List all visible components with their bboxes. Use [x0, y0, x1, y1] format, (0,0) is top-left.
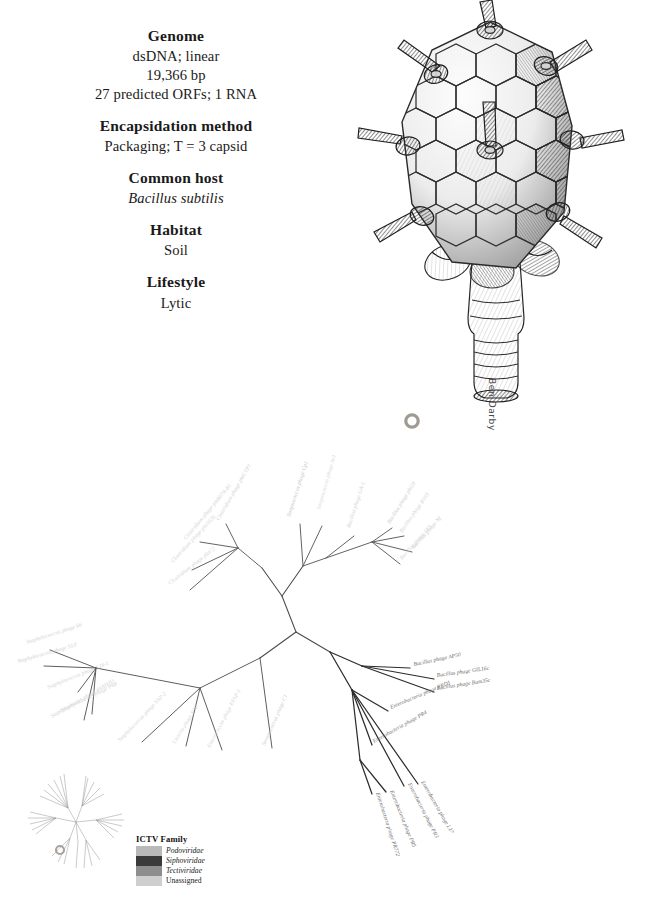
tree-tip-label: Staphylococcus phage S13' — [17, 641, 79, 664]
fact-line: dsDNA; linear — [0, 47, 352, 66]
tree-tip-label: Streptococcus phage C1 — [260, 693, 288, 746]
legend-item: Tectiviridae — [136, 866, 240, 876]
tree-tip-label: Clostridium phage phiC2 — [167, 545, 217, 586]
genome-fact-sheet: GenomedsDNA; linear19,366 bp27 predicted… — [0, 26, 352, 312]
legend-color-swatch — [136, 856, 162, 866]
legend-item-label: Tectiviridae — [162, 866, 202, 876]
legend-title: ICTV Family — [136, 834, 240, 844]
tree-tip-label: Streptococcus phage Cp1 — [285, 460, 309, 517]
phage-illustration — [340, 0, 645, 430]
legend-item: Podoviridae — [136, 846, 240, 856]
fact-line: Bacillus subtilis — [0, 189, 352, 208]
tree-tip-label: Listeria phage P70 — [170, 704, 199, 745]
legend-item-label: Siphoviridae — [162, 856, 205, 866]
inset-branches — [28, 774, 124, 868]
tree-tip-label: Staphylococcus phage SAP-2 — [116, 690, 167, 742]
fact-group: Encapsidation methodPackaging; T = 3 cap… — [0, 116, 352, 156]
inset-highlight-marker — [56, 846, 64, 854]
tree-overview-inset — [20, 768, 132, 872]
highlighted-taxon-marker — [406, 415, 418, 427]
fact-group: GenomedsDNA; linear19,366 bp27 predicted… — [0, 26, 352, 104]
legend-item: Siphoviridae — [136, 856, 240, 866]
legend: ICTV Family PodoviridaeSiphoviridaeTecti… — [136, 834, 240, 886]
tree-tip-label: Bacillus phage AP50 — [413, 651, 461, 667]
tree-tip-label: Streptococcus phage Av1 — [315, 454, 337, 511]
fact-line: 19,366 bp — [0, 66, 352, 85]
legend-rows: PodoviridaeSiphoviridaeTectiviridaeUnass… — [136, 846, 240, 886]
tree-tip-label: Enterobacteria phage PRD1 — [388, 679, 451, 710]
fact-line: Soil — [0, 241, 352, 260]
legend-color-swatch — [136, 866, 162, 876]
fact-heading: Habitat — [0, 220, 352, 240]
capsid-body — [358, 0, 624, 268]
fact-group: HabitatSoil — [0, 220, 352, 260]
legend-color-swatch — [136, 846, 162, 856]
fact-heading: Lifestyle — [0, 272, 352, 292]
tree-tip-label: Clostridium phage phi3626 — [169, 514, 216, 564]
fact-heading: Encapsidation method — [0, 116, 352, 136]
tree-branches — [44, 524, 434, 794]
legend-item-label: Unassigned — [162, 876, 201, 886]
fact-line: 27 predicted ORFs; 1 RNA — [0, 85, 352, 104]
fact-heading: Common host — [0, 168, 352, 188]
tree-tip-label: Enterobacteria phage PR4 — [371, 709, 428, 744]
legend-item: Unassigned — [136, 876, 240, 886]
fact-group: Common hostBacillus subtilis — [0, 168, 352, 208]
fact-line: Lytic — [0, 294, 352, 313]
fact-heading: Genome — [0, 26, 352, 46]
legend-item-label: Podoviridae — [162, 846, 204, 856]
fact-group: LifestyleLytic — [0, 272, 352, 312]
tree-tip-label: Bacillus phage GA-1 — [345, 481, 366, 529]
tree-tip-label: Bacillus phage GIL16c — [436, 665, 490, 678]
fact-line: Packaging; T = 3 capsid — [0, 137, 352, 156]
legend-color-swatch — [136, 876, 162, 886]
